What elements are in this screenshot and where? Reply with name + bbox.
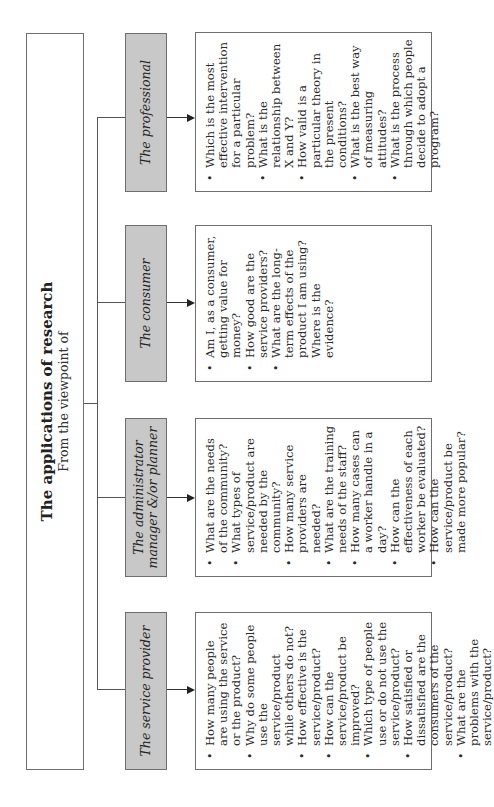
question-item: How many people are using the service or… (204, 619, 244, 759)
arrow-head-icon (187, 299, 195, 307)
role-box-consumer: The consumer (125, 225, 167, 382)
question-item: How satisfied or dissatisfied are the co… (402, 619, 455, 759)
stub-administrator (97, 497, 125, 498)
question-list: What are the needs of the community? Wha… (204, 425, 468, 566)
arrow-head-icon (187, 114, 195, 122)
arrow-shaft (167, 302, 188, 303)
question-item: What are the long-term effects of the pr… (270, 232, 336, 371)
questions-box-professional: Which is the most effective intervention… (195, 32, 432, 192)
role-label: The consumer (139, 258, 153, 348)
questions-box-consumer: Am I, as a consumer, getting value for m… (195, 225, 432, 382)
title-box: The applications of research From the vi… (26, 33, 84, 770)
title-connector (84, 403, 97, 404)
stub-service-provider (97, 689, 125, 690)
role-box-service-provider: The service provider (125, 612, 167, 770)
role-label: The administrator manager &/or planner (132, 425, 160, 570)
diagram-subtitle: From the viewpoint of (56, 331, 72, 471)
question-item: Which is the most effective intervention… (204, 39, 257, 181)
question-item: How can the service/product be made more… (428, 425, 468, 566)
questions-box-administrator: What are the needs of the community? Wha… (195, 418, 432, 577)
questions-box-service-provider: How many people are using the service or… (195, 612, 432, 770)
stub-consumer (97, 302, 125, 303)
role-label: The professional (139, 60, 153, 165)
question-item: How can the service/product be improved? (323, 619, 363, 759)
question-item: How good are the service providers? (244, 232, 270, 371)
arrow-consumer (167, 297, 195, 308)
arrow-head-icon (187, 494, 195, 502)
question-item: What types of service/product are needed… (230, 425, 283, 566)
question-list: Which is the most effective intervention… (204, 39, 442, 181)
question-item: What is the relationship between X and Y… (257, 39, 297, 181)
stub-professional (97, 117, 125, 118)
question-item: Why do some people use the service/produ… (244, 619, 297, 759)
role-label: The service provider (139, 626, 153, 757)
arrow-service-provider (167, 684, 195, 695)
question-item: What are the problems with the service/p… (455, 619, 494, 759)
question-item: How many cases can a worker handle in a … (349, 425, 389, 566)
question-item: How many service providers are needed? (283, 425, 323, 566)
diagram-title: The applications of research (38, 282, 56, 522)
question-item: Which type of people use or do not use t… (362, 619, 402, 759)
role-box-administrator: The administrator manager &/or planner (125, 418, 167, 577)
question-item: Am I, as a consumer, getting value for m… (204, 232, 244, 371)
arrow-head-icon (187, 686, 195, 694)
arrow-shaft (167, 689, 188, 690)
question-item: What are the training needs of the staff… (323, 425, 349, 566)
role-box-professional: The professional (125, 33, 167, 192)
question-item: What is the best way of measuring attitu… (349, 39, 389, 181)
question-item: How effective is the service/product? (296, 619, 322, 759)
arrow-professional (167, 112, 195, 123)
connector-bus (97, 117, 98, 690)
question-item: How can the effectiveness of each worker… (389, 425, 429, 566)
question-item: What are the needs of the community? (204, 425, 230, 566)
arrow-shaft (167, 117, 188, 118)
question-item: How valid is a particular theory in the … (296, 39, 349, 181)
question-item: What is the process through which people… (389, 39, 442, 181)
arrow-shaft (167, 497, 188, 498)
question-list: Am I, as a consumer, getting value for m… (204, 232, 336, 371)
question-list: How many people are using the service or… (204, 619, 494, 759)
arrow-administrator (167, 492, 195, 503)
